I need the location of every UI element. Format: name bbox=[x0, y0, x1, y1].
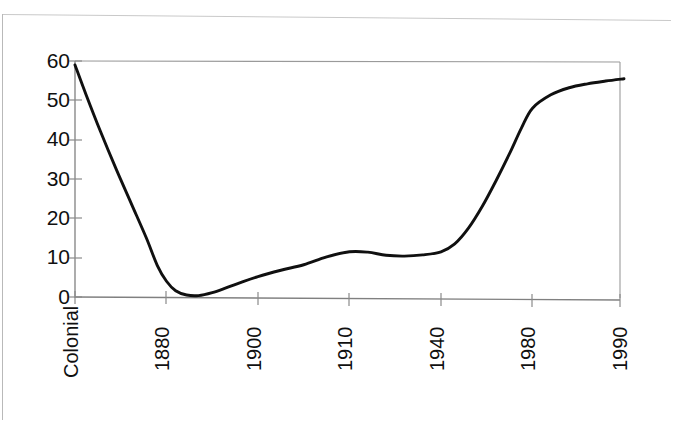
line-chart bbox=[0, 0, 675, 431]
data-series-line bbox=[75, 65, 624, 296]
plot-top-border bbox=[75, 61, 620, 62]
x-axis-line bbox=[75, 297, 620, 300]
scanned-page: 60 50 40 30 20 10 0 Colonial 1880 1900 1… bbox=[0, 0, 675, 431]
